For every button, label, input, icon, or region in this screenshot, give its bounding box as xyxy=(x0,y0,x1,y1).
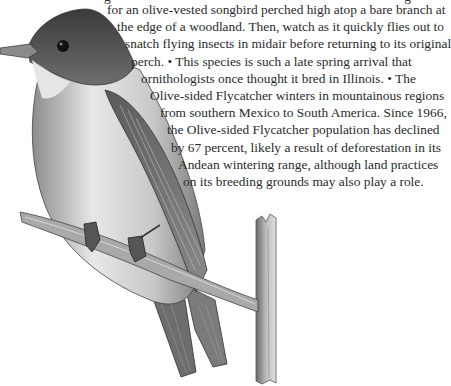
text-line-last: on its breeding grounds may also play a … xyxy=(183,173,424,190)
text-line: perch. • This species is such a late spr… xyxy=(131,53,411,70)
text-line: snatch flying insects in midair before r… xyxy=(125,35,411,52)
text-line: Andean wintering range, although land pr… xyxy=(178,156,411,173)
text-line: Olive-sided Flycatcher winters in mounta… xyxy=(150,87,411,104)
text-line: by 67 percent, likely a result of defore… xyxy=(171,139,411,156)
text-line: ornithologists once thought it bred in I… xyxy=(141,70,411,87)
text-line: the Olive-sided Flycatcher population ha… xyxy=(167,121,411,138)
text-line: for an olive-vested songbird perched hig… xyxy=(107,1,411,18)
text-line: the edge of a woodland. Then, watch as i… xyxy=(117,18,411,35)
text-line: from southern Mexico to South America. S… xyxy=(160,104,411,121)
